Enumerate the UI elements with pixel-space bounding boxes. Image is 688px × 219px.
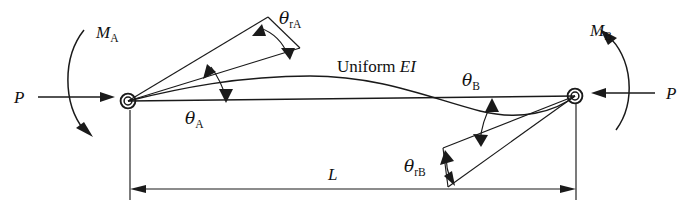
label-MB: MB (589, 21, 612, 42)
moment-arc-MA (68, 30, 93, 137)
P-right-arrowhead (591, 88, 606, 98)
label-span-L: L (327, 165, 337, 184)
theta-A-arrowhead-upper (203, 64, 216, 79)
beam-column-diagram: P P MA MB Uniform EI θrA θA θB (0, 0, 688, 219)
theta-rB-arrowhead-upper (440, 150, 454, 165)
theta-A-arrowhead-lower (219, 89, 233, 103)
theta-rA-arrowhead-lower (281, 48, 295, 60)
ray-B-inner (443, 96, 575, 148)
theta-B-arrowhead-lower (473, 134, 488, 147)
MA-arc-path (68, 30, 84, 130)
ray-B-outer (448, 96, 575, 187)
tangent-rays-at-B (443, 96, 575, 187)
MA-arrowhead (76, 122, 93, 137)
MB-arc-path (608, 36, 629, 130)
label-MA: MA (95, 23, 119, 44)
ray-A-outer (128, 17, 268, 101)
label-theta-B: θB (462, 70, 480, 92)
theta-B-arrowhead-upper (485, 98, 499, 112)
moment-arc-MB (600, 29, 629, 130)
label-theta-A: θA (185, 108, 204, 130)
angle-arc-theta-B (473, 98, 499, 147)
beam-chord-line (128, 96, 575, 101)
dimension-arrowhead-left (130, 185, 146, 193)
label-P-left: P (13, 88, 24, 107)
axial-load-arrow-right (591, 88, 655, 98)
label-uniform-EI: Uniform EI (337, 57, 417, 76)
theta-rB-arrowhead-lower (444, 171, 455, 186)
axial-load-arrow-left (38, 92, 115, 102)
label-theta-rB: θrB (404, 156, 426, 178)
diagram-canvas: P P MA MB Uniform EI θrA θA θB (0, 0, 688, 219)
dimension-arrowhead-right (560, 185, 576, 193)
tangent-rays-at-A (128, 17, 300, 101)
label-P-right: P (665, 84, 676, 103)
ray-A-middle (128, 48, 300, 101)
label-theta-rA: θrA (279, 8, 302, 30)
P-left-arrowhead (100, 92, 115, 102)
